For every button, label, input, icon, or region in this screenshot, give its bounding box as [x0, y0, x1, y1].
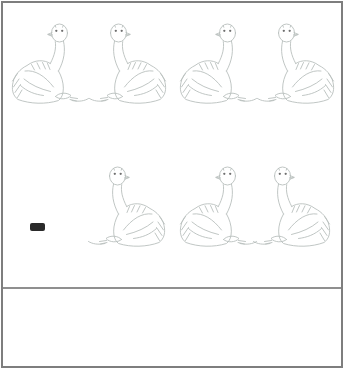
ostrich-illustration — [252, 165, 332, 251]
bird-line-art — [252, 165, 332, 251]
answer-box[interactable] — [3, 287, 341, 366]
bird-line-art — [178, 165, 258, 251]
bird-line-art — [87, 165, 167, 251]
worksheet-frame — [1, 1, 343, 368]
ostrich-illustration — [87, 165, 167, 251]
subtrahend-row — [3, 3, 341, 287]
work-area — [3, 3, 341, 287]
ostrich-illustration — [178, 165, 258, 251]
